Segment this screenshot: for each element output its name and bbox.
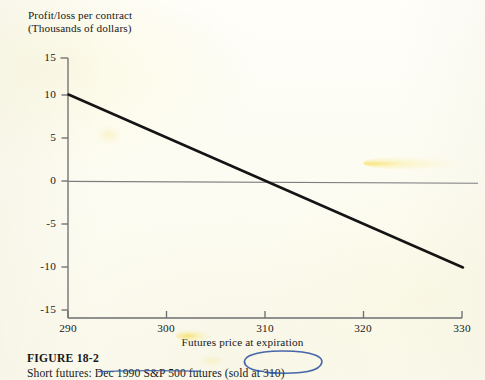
x-tick-label-290: 290 <box>48 322 88 334</box>
y-tick-label-neg10: -10 <box>22 260 56 272</box>
y-tick-label-0: 0 <box>22 174 56 186</box>
payoff-line <box>69 95 464 268</box>
y-tick-label-neg15: -15 <box>22 303 56 315</box>
y-tick-label-5: 5 <box>22 131 56 143</box>
x-tick-label-330: 330 <box>442 322 482 334</box>
x-axis-title: Futures price at expiration <box>0 336 485 348</box>
y-tick-label-neg5: -5 <box>22 217 56 229</box>
y-tick-label-15: 15 <box>22 51 56 63</box>
x-tick-label-300: 300 <box>146 322 186 334</box>
figure-description: Short futures: Dec 1990 S&P 500 futures … <box>27 367 467 380</box>
y-axis-ticks <box>62 95 69 310</box>
y-tick-label-10: 10 <box>22 88 56 100</box>
x-tick-label-320: 320 <box>343 322 383 334</box>
x-tick-label-310: 310 <box>245 322 285 334</box>
figure-number: FIGURE 18-2 <box>27 352 467 366</box>
figure-caption: FIGURE 18-2 Short futures: Dec 1990 S&P … <box>27 352 467 380</box>
plot-area <box>0 0 485 345</box>
x-axis-ticks <box>68 311 462 318</box>
chart-figure: Profit/loss per contract (Thousands of d… <box>0 0 485 345</box>
